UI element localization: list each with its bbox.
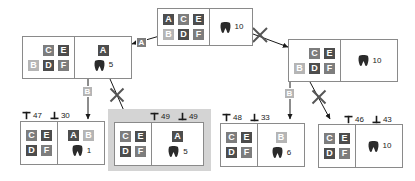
tile-row: B D F [293, 62, 336, 75]
tile: A [67, 129, 80, 142]
root-node[interactable]: A C E B D F 10 [157, 8, 253, 46]
upper-bound-icon [344, 115, 353, 124]
lower-bound: 43 [372, 115, 392, 124]
tile: B [162, 28, 175, 41]
upper-bound-value: 48 [233, 114, 242, 122]
lower-bound-icon [178, 112, 187, 121]
lower-bound-icon [250, 113, 259, 122]
tile: C [42, 44, 55, 57]
lower-bound: 49 [178, 112, 198, 121]
tile: B [293, 62, 306, 75]
count-value: 6 [287, 149, 291, 157]
tile: C [25, 129, 38, 142]
tile: E [323, 47, 336, 60]
lower-bound: 30 [50, 111, 70, 120]
tile: E [192, 13, 205, 26]
cross-out-icon-right-leaf4 [310, 88, 328, 106]
right-child-summary: 10 [341, 40, 397, 81]
upper-bound: 49 [150, 112, 170, 121]
tile: A [97, 44, 110, 57]
tile-empty [27, 44, 40, 57]
tile-row: C E [323, 132, 351, 145]
edge-label-right-to-leaf3: B [284, 88, 295, 99]
count-value: 5 [109, 61, 113, 69]
tile-row: D F [225, 146, 253, 159]
tooth-icon [271, 146, 284, 159]
upper-bound: 47 [22, 111, 42, 120]
lower-bound-value: 43 [383, 116, 392, 124]
tile: E [240, 131, 253, 144]
upper-bound-value: 47 [33, 112, 42, 120]
lower-bound-value: 30 [61, 112, 70, 120]
tooth-icon [367, 140, 380, 153]
tile: E [57, 44, 70, 57]
leaf-node-3[interactable]: C E D F B 6 [220, 123, 305, 167]
tile: F [338, 147, 351, 160]
tile: D [25, 144, 38, 157]
root-node-tiles: A C E B D F [158, 9, 209, 45]
root-node-summary: 10 [210, 9, 252, 45]
leaf-3-bounds: 48 33 [222, 113, 270, 122]
tile: B [27, 59, 40, 72]
assigned-tiles: A [171, 130, 184, 143]
tile: C [177, 13, 190, 26]
lower-bound-icon [50, 111, 59, 120]
leaf-3-summary: B 6 [258, 124, 304, 166]
tile-row: C E [25, 129, 53, 142]
upper-bound-value: 49 [161, 113, 170, 121]
diagram-canvas: A B B A C E B D F 10 [0, 0, 415, 181]
lower-bound-value: 49 [189, 113, 198, 121]
lower-bound-icon [372, 115, 381, 124]
tile: E [40, 129, 53, 142]
tile: E [338, 132, 351, 145]
tooth-icon [219, 21, 232, 34]
tile: F [134, 145, 147, 158]
left-child-node[interactable]: C E B D F A 5 [22, 36, 132, 79]
tile-row: A C E [162, 13, 205, 26]
tile-row: C E [225, 131, 253, 144]
right-child-node[interactable]: C E B D F 10 [288, 39, 398, 82]
leaf-2-tiles: C E D F [115, 123, 151, 165]
tile: A [162, 13, 175, 26]
leaf-3-tiles: C E D F [221, 124, 257, 166]
tile: B [275, 131, 288, 144]
tile: D [308, 62, 321, 75]
edge-label-root-to-left: A [136, 37, 147, 48]
leaf-node-2[interactable]: C E D F A 5 [114, 122, 204, 166]
tile-row: C E [119, 130, 147, 143]
tooth-icon [93, 59, 106, 72]
left-child-summary: A 5 [75, 37, 131, 78]
tile: D [177, 28, 190, 41]
left-child-tiles: C E B D F [23, 37, 74, 78]
cross-out-icon-root-right [250, 25, 270, 45]
tooth-count: 6 [271, 146, 291, 159]
tooth-icon [167, 145, 180, 158]
tooth-icon [357, 54, 370, 67]
tile: C [225, 131, 238, 144]
assigned-tiles: A [97, 44, 110, 57]
cross-out-icon-left-leaf2 [108, 86, 126, 104]
assigned-tiles: B [275, 131, 288, 144]
tile: F [323, 62, 336, 75]
upper-bound-icon [22, 111, 31, 120]
leaf-node-4[interactable]: C E D F 10 [318, 124, 403, 168]
tooth-icon [71, 144, 84, 157]
tile: A [171, 130, 184, 143]
tile-row: D F [323, 147, 351, 160]
count-value: 10 [373, 57, 382, 65]
upper-bound: 46 [344, 115, 364, 124]
tooth-count: 10 [357, 54, 382, 67]
leaf-1-bounds: 47 30 [22, 111, 70, 120]
right-child-tiles: C E B D F [289, 40, 340, 81]
tile: B [82, 129, 95, 142]
tooth-count: 10 [367, 140, 392, 153]
tile: D [119, 145, 132, 158]
tile: C [119, 130, 132, 143]
count-value: 10 [383, 142, 392, 150]
lower-bound-value: 33 [261, 114, 270, 122]
leaf-node-1[interactable]: C E D F A B 1 [20, 121, 105, 165]
count-value: 5 [183, 148, 187, 156]
tile-row: D F [25, 144, 53, 157]
tooth-count: 5 [93, 59, 113, 72]
tile: D [225, 146, 238, 159]
